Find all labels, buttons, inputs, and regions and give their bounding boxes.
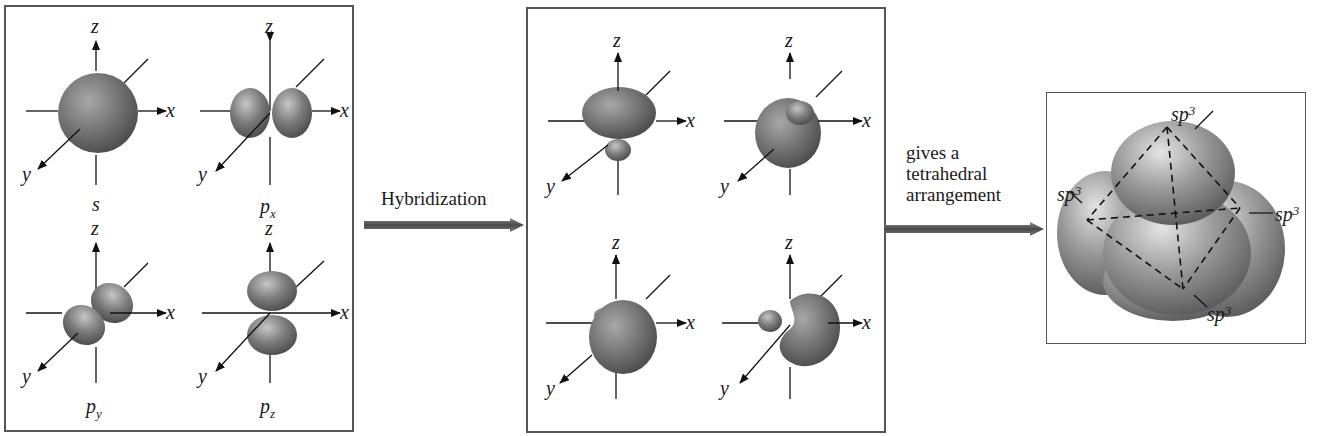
sp3-orbital-3: [546, 255, 686, 399]
orbital-letter: p: [260, 195, 270, 217]
px-orbital: [200, 41, 340, 185]
orbital-subscript: z: [270, 406, 275, 421]
axis-label-x: x: [166, 99, 175, 121]
axis-label-y: y: [546, 377, 555, 399]
axis-label-z: z: [91, 217, 99, 239]
label-base: sp: [1171, 103, 1189, 125]
label-base: sp: [1207, 303, 1225, 325]
py-orbital: [26, 243, 166, 383]
sp3-orbital-1: [548, 53, 686, 195]
axis-label-y: y: [546, 175, 555, 197]
orbital-label-py: py: [86, 395, 102, 420]
label-line: tetrahedral: [906, 163, 1001, 184]
sp3-lobes: [1057, 121, 1285, 321]
label-exponent: 3: [1293, 203, 1300, 218]
sp3-label-left: sp3: [1057, 183, 1081, 205]
label-exponent: 3: [1225, 303, 1232, 318]
sp3-orbital-4: [722, 255, 862, 399]
sp3-label-right: sp3: [1275, 203, 1299, 225]
tetrahedral-drawing: [1047, 93, 1307, 345]
axis-label-z: z: [91, 15, 99, 37]
axis-label-x: x: [166, 301, 175, 323]
axis-label-x: x: [862, 311, 871, 333]
axis-label-x: x: [686, 109, 695, 131]
hybrid-orbitals-drawing: [528, 9, 888, 435]
orbital-subscript: y: [96, 406, 102, 421]
label-base: sp: [1275, 203, 1293, 225]
tetrahedral-arrow: [884, 222, 1044, 236]
label-base: sp: [1057, 183, 1075, 205]
label-exponent: 3: [1075, 183, 1082, 198]
axis-label-z: z: [785, 29, 793, 51]
axis-label-z: z: [613, 29, 621, 51]
orbital-letter: p: [260, 395, 270, 417]
hybridization-label: Hybridization: [381, 188, 487, 210]
atomic-orbitals-panel: z x y s z x y px z x y py z x y pz: [4, 5, 354, 432]
label-line: gives a: [906, 142, 1001, 163]
axis-label-x: x: [686, 311, 695, 333]
axis-label-y: y: [720, 377, 729, 399]
axis-label-y: y: [198, 163, 207, 185]
sp3-label-top: sp3: [1171, 103, 1195, 125]
orbital-label-s: s: [92, 193, 100, 215]
label-line: arrangement: [906, 184, 1001, 205]
axis-label-x: x: [862, 109, 871, 131]
axis-label-x: x: [340, 99, 349, 121]
sp3-label-bottom: sp3: [1207, 303, 1231, 325]
axis-label-y: y: [22, 365, 31, 387]
hybrid-orbitals-panel: z x y z x y z x y z x y: [526, 7, 886, 433]
axis-label-z: z: [265, 15, 273, 37]
sp3-orbital-2: [724, 53, 862, 195]
orbital-label-pz: pz: [260, 395, 275, 420]
axis-label-z: z: [265, 217, 273, 239]
pz-orbital: [202, 243, 340, 383]
axis-label-y: y: [22, 163, 31, 185]
tetrahedral-panel: sp3 sp3 sp3 sp3: [1046, 92, 1306, 344]
axis-label-y: y: [720, 175, 729, 197]
axis-label-z: z: [612, 231, 620, 253]
axis-label-x: x: [340, 301, 349, 323]
axis-label-y: y: [198, 365, 207, 387]
s-orbital: [26, 41, 166, 185]
tetrahedral-arrangement-label: gives a tetrahedral arrangement: [906, 142, 1001, 205]
orbital-letter: p: [86, 395, 96, 417]
atomic-orbitals-drawing: [6, 7, 356, 434]
axis-label-z: z: [785, 231, 793, 253]
hybridization-arrow: [364, 218, 524, 232]
label-exponent: 3: [1189, 103, 1196, 118]
